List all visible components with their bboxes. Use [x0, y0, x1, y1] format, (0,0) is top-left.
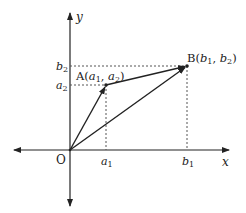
origin-label: O: [56, 153, 66, 167]
tick-label-a1: a1: [101, 155, 113, 169]
point-A-label: A(a1, a2): [75, 69, 125, 84]
point-B-label: B(b1, b2): [187, 51, 237, 66]
axes: [14, 13, 229, 206]
point-A: [104, 83, 108, 87]
y-axis-label: y: [75, 10, 83, 24]
tick-label-b2: b2: [56, 60, 68, 74]
point-O: [69, 149, 72, 152]
vector-OA: [70, 87, 105, 150]
vector-diagram: y x O b2 a2 a1 b1 A(a1, a2) B(b1, b2): [0, 0, 246, 213]
tick-label-b1: b1: [182, 155, 194, 169]
tick-label-a2: a2: [56, 79, 68, 93]
x-axis-label: x: [222, 155, 229, 169]
